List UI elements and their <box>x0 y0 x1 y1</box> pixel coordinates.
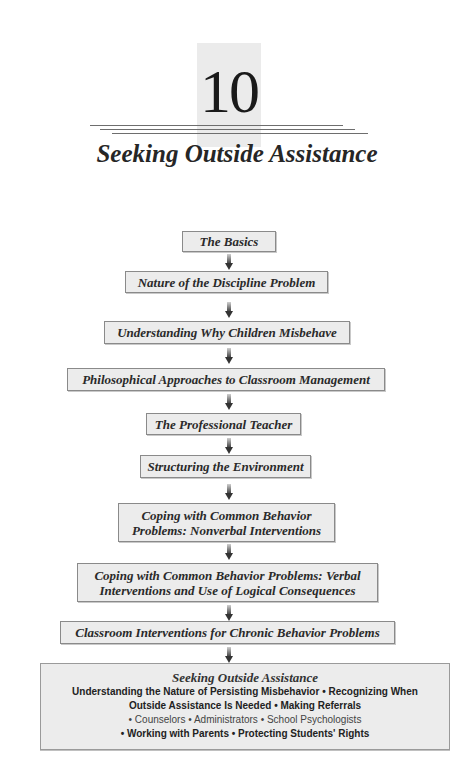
flow-step-label: Philosophical Approaches to Classroom Ma… <box>82 372 370 387</box>
final-step-topics-line3: • Counselors • Administrators • School P… <box>41 713 449 727</box>
flow-step-classroom-interventions: Classroom Interventions for Chronic Beha… <box>60 621 395 644</box>
arrow-down-icon <box>225 394 233 410</box>
flow-step-label-line1: Coping with Common Behavior Problems: Ve… <box>94 568 360 583</box>
flow-step-label: Structuring the Environment <box>147 459 303 474</box>
final-step-topics-line2: Outside Assistance Is Needed • Making Re… <box>41 699 449 713</box>
flow-step-label: Nature of the Discipline Problem <box>138 275 316 290</box>
flow-step-label: Understanding Why Children Misbehave <box>117 325 337 340</box>
flow-step-seeking-outside-assistance: Seeking Outside Assistance Understanding… <box>40 663 450 750</box>
arrow-down-icon <box>225 544 233 560</box>
flow-step-label-line1: Coping with Common Behavior <box>141 508 311 523</box>
flow-step-basics: The Basics <box>182 231 276 252</box>
arrow-down-icon <box>225 302 233 318</box>
flow-step-structuring: Structuring the Environment <box>140 455 311 478</box>
arrow-down-icon <box>225 484 233 500</box>
flow-step-label: The Professional Teacher <box>155 417 292 432</box>
arrow-down-icon <box>225 605 233 621</box>
chapter-title: Seeking Outside Assistance <box>0 140 474 168</box>
flow-step-nature: Nature of the Discipline Problem <box>125 271 328 293</box>
arrow-down-icon <box>225 348 233 364</box>
final-step-topics-line1: Understanding the Nature of Persisting M… <box>41 685 449 699</box>
flow-step-nonverbal: Coping with Common Behavior Problems: No… <box>118 503 335 542</box>
flow-step-understanding: Understanding Why Children Misbehave <box>104 321 350 344</box>
flow-step-label: Classroom Interventions for Chronic Beha… <box>75 625 379 640</box>
header-rule-2 <box>100 129 355 130</box>
final-step-topics-line4: • Working with Parents • Protecting Stud… <box>41 727 449 741</box>
flow-step-label-line2: Problems: Nonverbal Interventions <box>132 523 321 538</box>
arrow-down-icon <box>225 438 233 454</box>
flow-step-philosophical: Philosophical Approaches to Classroom Ma… <box>67 368 385 391</box>
flow-step-verbal: Coping with Common Behavior Problems: Ve… <box>77 563 378 602</box>
flow-step-professional-teacher: The Professional Teacher <box>146 413 301 435</box>
final-step-title: Seeking Outside Assistance <box>41 670 449 685</box>
arrow-down-icon <box>225 647 233 663</box>
flow-step-label-line2: Interventions and Use of Logical Consequ… <box>99 583 355 598</box>
flow-step-label: The Basics <box>200 234 259 249</box>
arrow-down-icon <box>225 254 233 270</box>
chapter-number: 10 <box>197 60 261 122</box>
header-rule-3 <box>112 133 368 134</box>
header-rule-1 <box>90 125 343 126</box>
